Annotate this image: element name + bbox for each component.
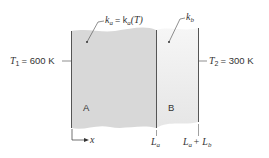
x-axis-label: x — [89, 134, 95, 145]
la-label: La — [150, 136, 161, 149]
t1-label: T1= 600 K — [10, 55, 55, 67]
x-axis — [72, 129, 84, 140]
material-a-label: A — [83, 102, 90, 113]
la-plus-lb-label: La+ Lb — [182, 136, 212, 149]
material-b-label: B — [168, 102, 174, 113]
composite-wall-diagram: ka= ka(T) kb T1= 600 K T2= 300 K A B x L… — [0, 0, 269, 158]
material-b-region — [156, 28, 198, 128]
ka-label: ka= ka(T) — [105, 14, 144, 27]
kb-label: kb — [186, 11, 194, 24]
t2-label: T2= 300 K — [209, 55, 254, 67]
x-axis-arrow-icon — [84, 138, 89, 142]
material-a-region — [71, 28, 156, 129]
